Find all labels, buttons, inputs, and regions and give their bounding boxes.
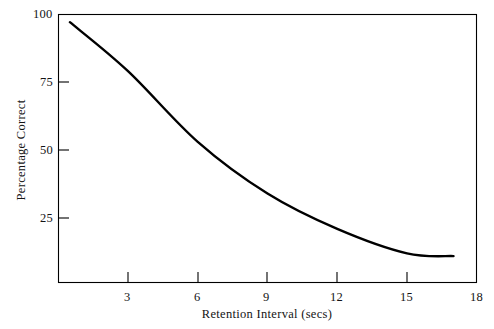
x-tick-label-15: 15 (400, 291, 413, 304)
x-tick-label-3: 3 (124, 291, 130, 304)
x-axis-ticks (128, 272, 407, 283)
y-tick-label-75: 75 (40, 76, 53, 89)
x-tick-label-9: 9 (263, 291, 269, 304)
x-axis-title: Retention Interval (secs) (202, 307, 332, 321)
x-tick-label-6: 6 (194, 291, 200, 304)
y-axis-ticks (59, 82, 70, 218)
y-tick-label-25: 25 (40, 212, 53, 225)
plot-frame (59, 15, 477, 283)
x-tick-label-18: 18 (470, 291, 483, 304)
y-tick-label-50: 50 (40, 144, 53, 157)
line-chart: Percentage Correct Retention Interval (s… (0, 0, 494, 329)
y-tick-label-100: 100 (33, 8, 52, 21)
x-tick-label-12: 12 (330, 291, 343, 304)
y-axis-title: Percentage Correct (14, 99, 28, 200)
data-series-line (70, 22, 454, 256)
figure-canvas: Percentage Correct Retention Interval (s… (0, 0, 494, 329)
